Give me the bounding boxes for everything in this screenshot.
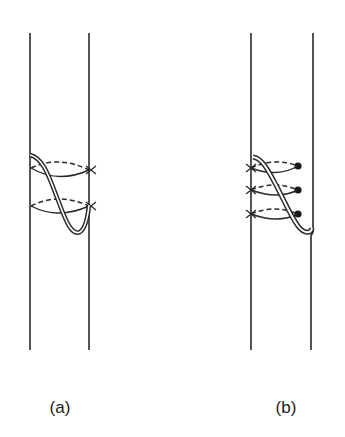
panel-a-loop-1-front (31, 168, 89, 177)
panel-b-ribbon (253, 157, 312, 232)
panel-b-loop-2-front (251, 190, 298, 195)
panel-b-loop-1-front (251, 166, 298, 173)
panel-b-dots (294, 162, 301, 217)
panel-b-right-edge (311, 33, 313, 350)
diagram-canvas (0, 0, 345, 437)
panel-b-dot-1-icon (294, 162, 301, 169)
panel-b (246, 33, 313, 350)
panel-a-label: (a) (40, 398, 80, 418)
panel-a (30, 33, 96, 350)
panel-b-dot-2-icon (294, 186, 301, 193)
panel-b-label: (b) (266, 398, 306, 418)
panel-b-loop-1-back (251, 162, 298, 168)
panel-b-dot-3-icon (294, 210, 301, 217)
